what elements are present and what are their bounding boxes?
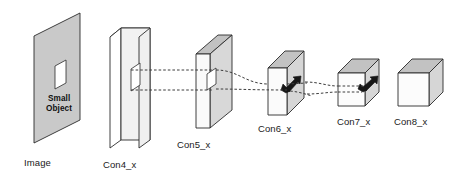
conv8-front-face: [398, 73, 429, 106]
conv4-block-group: Con4_x: [103, 28, 150, 170]
image-plane-group: Small Object Image: [24, 13, 80, 168]
flow-conv6-conv7-lower: [307, 92, 338, 94]
flow-conv6-conv7-upper: [305, 82, 338, 86]
conv4-front-sheet: [139, 28, 150, 148]
cnn-pyramid-diagram: Small Object Image Con4_x: [0, 0, 469, 178]
diagram-canvas: Small Object Image Con4_x: [0, 0, 469, 178]
conv4-label: Con4_x: [103, 159, 136, 170]
small-object-label-line1: Small: [48, 94, 70, 103]
conv6-label: Con6_x: [258, 123, 291, 134]
conv5-front-face: [196, 54, 210, 128]
image-label: Image: [24, 157, 51, 168]
conv4-side-face: [110, 28, 121, 148]
conv7-block-group: Con7_x: [337, 59, 379, 127]
small-object-label-line2: Object: [46, 104, 72, 113]
conv5-label: Con5_x: [177, 139, 210, 150]
flow-connectors-group: [131, 70, 364, 96]
conv7-label: Con7_x: [337, 116, 370, 127]
conv6-block-group: Con6_x: [258, 51, 304, 134]
conv8-block-group: Con8_x: [394, 59, 443, 127]
conv5-block-group: Con5_x: [177, 35, 232, 150]
conv8-label: Con8_x: [394, 116, 427, 127]
